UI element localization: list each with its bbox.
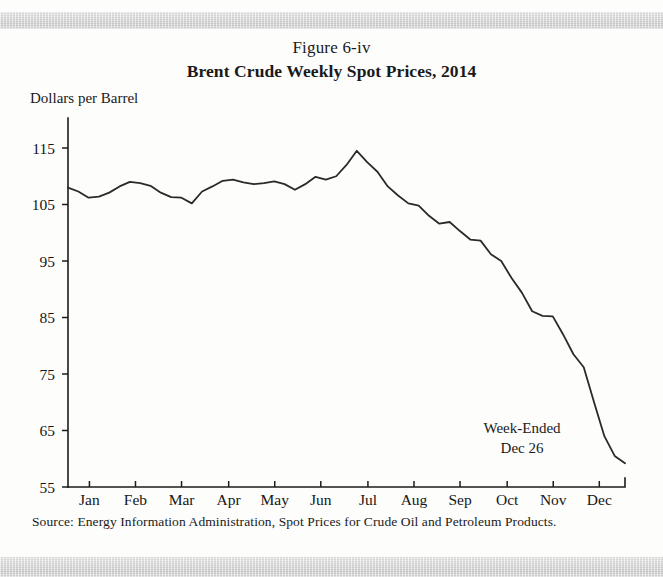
plot-area: 5565758595105115 JanFebMarAprMayJunJulAu… bbox=[0, 0, 663, 577]
x-tick-label-feb: Feb bbox=[124, 491, 148, 508]
x-tick-label-apr: Apr bbox=[217, 491, 242, 508]
y-tick-label: 55 bbox=[40, 479, 56, 496]
final-point-annotation: Week-Ended Dec 26 bbox=[462, 418, 582, 458]
x-axis-tick-group: JanFebMarAprMayJunJulAugSepOctNovDec bbox=[79, 481, 612, 508]
y-tick-label: 75 bbox=[40, 366, 56, 383]
y-tick-label: 105 bbox=[32, 196, 56, 213]
y-tick-label: 95 bbox=[40, 253, 56, 270]
x-tick-label-nov: Nov bbox=[540, 491, 567, 508]
y-tick-label: 115 bbox=[32, 140, 55, 157]
annotation-line-2: Dec 26 bbox=[462, 438, 582, 458]
source-note: Source: Energy Information Administratio… bbox=[32, 514, 557, 530]
y-tick-label: 65 bbox=[40, 422, 56, 439]
x-tick-label-aug: Aug bbox=[401, 491, 428, 508]
brent-crude-price-line bbox=[68, 151, 625, 463]
x-tick-label-may: May bbox=[261, 491, 290, 508]
y-tick-label: 85 bbox=[40, 309, 56, 326]
x-tick-label-mar: Mar bbox=[169, 491, 196, 508]
x-tick-label-oct: Oct bbox=[496, 491, 519, 508]
y-axis-tick-group: 5565758595105115 bbox=[32, 140, 68, 496]
x-tick-label-dec: Dec bbox=[587, 491, 612, 508]
x-tick-label-jan: Jan bbox=[79, 491, 100, 508]
annotation-line-1: Week-Ended bbox=[462, 418, 582, 438]
x-tick-label-jul: Jul bbox=[359, 491, 377, 508]
figure-page: Figure 6-iv Brent Crude Weekly Spot Pric… bbox=[0, 0, 663, 577]
x-tick-label-sep: Sep bbox=[448, 491, 472, 508]
line-chart-svg: 5565758595105115 JanFebMarAprMayJunJulAu… bbox=[0, 0, 663, 577]
x-axis-line bbox=[68, 478, 625, 487]
x-tick-label-jun: Jun bbox=[310, 491, 332, 508]
